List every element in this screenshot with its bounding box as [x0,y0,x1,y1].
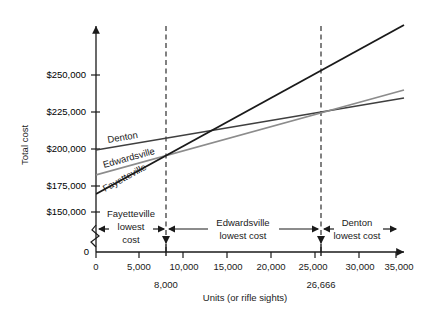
x-tick-label-20000: 20,000 [256,261,285,272]
x-tick-label-35000: 35,000 [384,261,413,272]
region-label-fayetteville-line2: lowest [118,221,145,232]
region-label-denton-line1: Denton [342,217,373,228]
region-label-edwardsville-line2: lowest cost [220,230,267,241]
callout-label-26666: 26,666 [306,279,335,290]
y-tick-label-150000: $150,000 [46,206,86,217]
x-tick-label-15000: 15,000 [213,261,242,272]
region-label-fayetteville-line1: Fayetteville [107,208,155,219]
x-tick-label-25000: 25,000 [298,261,327,272]
x-tick-label-0: 0 [93,261,98,272]
callout-label-8000: 8,000 [154,279,178,290]
region-label-edwardsville-line1: Edwardsville [216,217,269,228]
y-tick-label-200000: $200,000 [46,143,86,154]
x-tick-label-5000: 5,000 [127,261,151,272]
region-label-denton-line2: lowest cost [334,230,381,241]
y-tick-label-250000: $250,000 [46,69,86,80]
x-tick-label-10000: 10,000 [169,261,198,272]
x-tick-label-30000: 30,000 [345,261,374,272]
x-axis-title: Units (or rifle sights) [203,292,287,303]
y-tick-label-225000: $225,000 [46,106,86,117]
cost-comparison-chart: $250,000 $225,000 $200,000 $175,000 $150… [0,0,429,317]
region-label-fayetteville-line3: cost [122,234,140,245]
y-tick-label-zero: 0 [84,246,89,257]
y-tick-label-175000: $175,000 [46,180,86,191]
y-axis-title: Total cost [19,125,30,165]
